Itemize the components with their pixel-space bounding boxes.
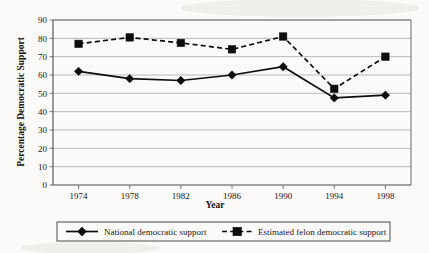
chart-figure: 0102030405060708090 19741978198219861990… xyxy=(0,0,429,253)
x-tick-label: 1998 xyxy=(376,191,395,201)
data-point-square xyxy=(177,39,184,46)
x-tick-label: 1974 xyxy=(70,191,89,201)
line-chart: 0102030405060708090 19741978198219861990… xyxy=(0,0,429,253)
y-tick-label: 40 xyxy=(38,107,48,117)
y-tick-label: 70 xyxy=(38,52,48,62)
x-tick-label: 1986 xyxy=(223,191,242,201)
y-tick-label: 60 xyxy=(38,70,48,80)
y-axis-title: Percentage Democratic Support xyxy=(16,36,26,166)
y-tick-label: 20 xyxy=(38,144,48,154)
y-tick-label: 50 xyxy=(38,89,48,99)
data-point-square xyxy=(228,46,235,53)
data-point-square xyxy=(126,34,133,41)
legend-label-felon: Estimated felon democratic support xyxy=(258,227,387,237)
x-axis-title: Year xyxy=(206,200,226,210)
square-icon xyxy=(233,227,241,235)
x-tick-label: 1994 xyxy=(325,191,344,201)
legend-label-national: National democratic support xyxy=(104,227,207,237)
y-tick-label: 90 xyxy=(38,15,48,25)
y-tick-label: 30 xyxy=(38,125,48,135)
data-point-square xyxy=(382,53,389,60)
x-tick-label: 1982 xyxy=(172,191,190,201)
x-tick-label: 1990 xyxy=(274,191,293,201)
y-tick-label: 80 xyxy=(38,34,48,44)
data-point-square xyxy=(331,85,338,92)
y-tick-label: 0 xyxy=(43,180,48,190)
data-point-square xyxy=(279,33,286,40)
x-tick-label: 1978 xyxy=(121,191,140,201)
data-point-square xyxy=(75,40,82,47)
y-tick-label: 10 xyxy=(38,162,48,172)
